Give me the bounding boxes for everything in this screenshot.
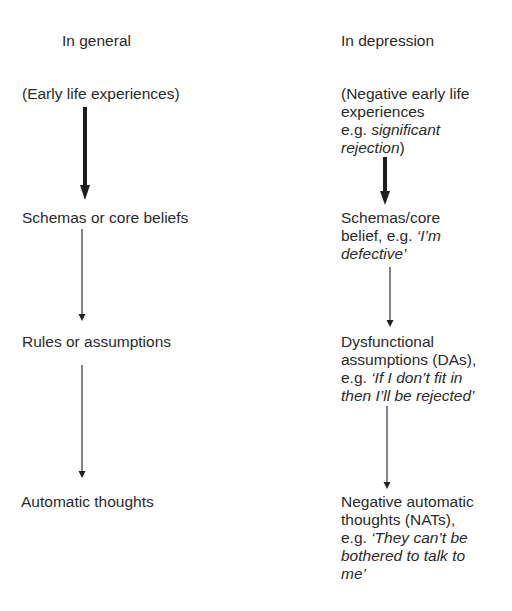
thick-arrow-down-icon bbox=[80, 107, 90, 200]
thick-arrow-down-icon bbox=[380, 157, 390, 205]
arrow-down-icon bbox=[79, 229, 86, 321]
arrows-layer bbox=[0, 0, 512, 611]
arrow-down-icon bbox=[384, 406, 391, 489]
arrow-down-icon bbox=[387, 267, 394, 327]
arrow-down-icon bbox=[79, 365, 86, 478]
